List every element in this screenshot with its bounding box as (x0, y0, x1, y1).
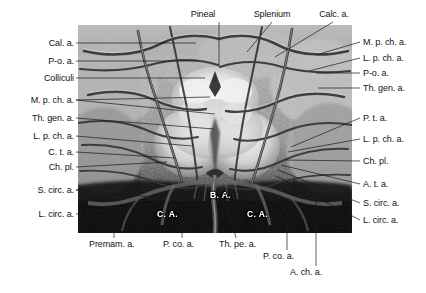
label-l-p-ch-a-left: L. p. ch. a. (0, 131, 74, 141)
label-p-co-a-2: P. co. a. (263, 251, 294, 261)
label-a-ch-a: A. ch. a. (290, 267, 322, 277)
label-l-circ-a-right: L. circ. a. (363, 215, 398, 225)
label-s-circ-a-left: S. circ. a. (0, 185, 74, 195)
specimen-photo-graphic (78, 25, 352, 233)
label-splenium: Splenium (241, 9, 303, 19)
label-colliculi: Colliculi (0, 73, 74, 83)
label-l-p-ch-a-right-2: L. p. ch. a. (363, 134, 404, 144)
label-premam-a: Premam. a. (89, 239, 135, 249)
label-pineal: Pineal (180, 9, 226, 19)
label-c-t-a: C. t. a. (0, 147, 74, 157)
in-photo-label-carotid-artery-left: C. A. (157, 209, 178, 219)
in-photo-label-carotid-artery-right: C. A. (247, 209, 268, 219)
label-m-p-ch-a-left: M. p. ch. a. (0, 95, 74, 105)
label-p-o-a-right: P-o. a. (363, 68, 389, 78)
label-cal-a: Cal. a. (0, 38, 74, 48)
specimen-photograph: B. A. C. A. C. A. (78, 25, 352, 233)
label-s-circ-a-right: S. circ. a. (363, 198, 399, 208)
anatomical-figure-plate: B. A. C. A. C. A. (0, 0, 426, 293)
label-th-gen-a-right: Th. gen. a. (363, 83, 405, 93)
in-photo-label-basilar-artery: B. A. (210, 190, 231, 200)
label-l-circ-a-left: L. circ. a. (0, 209, 74, 219)
label-a-t-a: A. t. a. (363, 179, 388, 189)
label-p-co-a-1: P. co. a. (163, 239, 194, 249)
label-ch-pl-right: Ch. pl. (363, 156, 388, 166)
label-calc-a: Calc. a. (309, 9, 359, 19)
label-ch-pl-left: Ch. pl. (0, 162, 74, 172)
label-th-gen-a-left: Th. gen. a. (0, 113, 74, 123)
label-p-o-a: P-o. a. (0, 56, 74, 66)
label-m-p-ch-a-right: M. p. ch. a. (363, 37, 406, 47)
label-l-p-ch-a-right: L. p. ch. a. (363, 53, 404, 63)
label-th-pe-a: Th. pe. a. (219, 239, 256, 249)
label-p-t-a: P. t. a. (363, 113, 387, 123)
